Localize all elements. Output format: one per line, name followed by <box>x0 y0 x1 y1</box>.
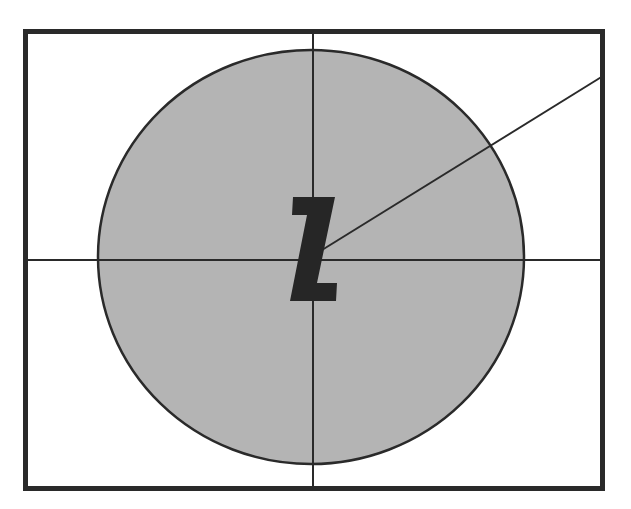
circle-diagram: Z <box>0 0 631 509</box>
